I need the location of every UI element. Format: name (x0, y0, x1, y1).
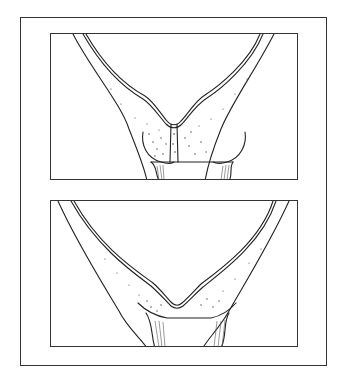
hatching (157, 165, 229, 180)
anatomy-drawing-bottom (51, 201, 298, 347)
hatching (155, 320, 225, 347)
illustration-panel-top (50, 33, 298, 180)
illustration-panel-bottom (50, 200, 298, 347)
anatomy-drawing-top (51, 34, 298, 180)
stipple-texture (110, 78, 247, 156)
